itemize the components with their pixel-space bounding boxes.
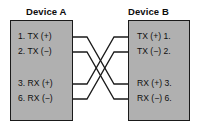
device-a-pin-list: 1. TX (+) 2. TX (−) 3. RX (+) 6. RX (−) <box>11 21 72 120</box>
device-a-heading: Device A <box>26 7 67 17</box>
wire-a1-b3 <box>73 37 128 84</box>
device-b-pin-6-label: RX (−) 6. <box>137 94 172 103</box>
wire-a2-b6 <box>73 52 128 99</box>
device-b-pin-2-label: TX (−) 2. <box>137 47 171 56</box>
device-b-heading: Device B <box>128 7 169 17</box>
device-a-pin-3-label: 3. RX (+) <box>18 79 53 88</box>
device-b-box: TX (+) 1. TX (−) 2. RX (+) 3. RX (−) 6. <box>128 20 190 121</box>
wire-a3-b1 <box>73 37 128 84</box>
device-b-pin-list: TX (+) 1. TX (−) 2. RX (+) 3. RX (−) 6. <box>129 21 189 120</box>
device-a-pin-6-label: 6. RX (−) <box>18 94 53 103</box>
wiring-diagram: Device A Device B 1. TX (+) 2. TX (−) 3.… <box>0 0 199 127</box>
device-a-box: 1. TX (+) 2. TX (−) 3. RX (+) 6. RX (−) <box>10 20 73 121</box>
device-b-pin-1-label: TX (+) 1. <box>137 32 171 41</box>
device-b-pin-3-label: RX (+) 3. <box>137 79 172 88</box>
wire-a6-b2 <box>73 52 128 99</box>
device-a-pin-1-label: 1. TX (+) <box>18 32 52 41</box>
device-a-pin-2-label: 2. TX (−) <box>18 47 52 56</box>
